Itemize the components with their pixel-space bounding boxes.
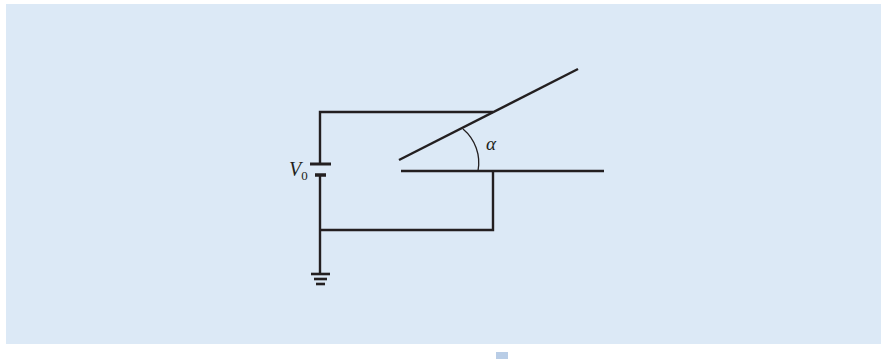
angle-label: α [486,133,497,154]
angle-arc-icon [463,129,479,171]
page-marker [496,352,508,359]
ground-icon [311,274,330,284]
bottom-wire [320,171,493,230]
voltage-label: V0 [289,158,308,183]
circuit-diagram: V0 α [0,0,891,359]
